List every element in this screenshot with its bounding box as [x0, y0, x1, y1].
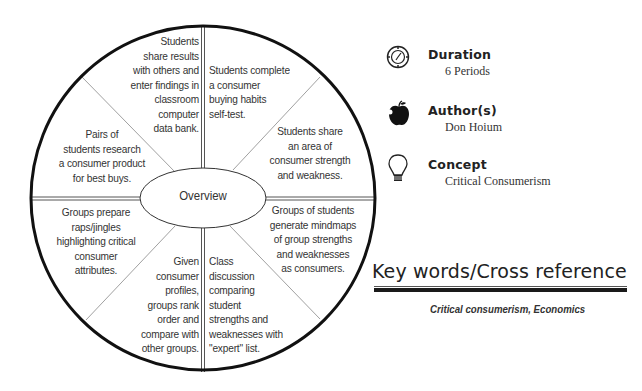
segment-right-upper: Students share an area of consumer stren… [257, 124, 363, 182]
authors-label: Author(s) [428, 103, 497, 118]
lightbulb-icon [386, 153, 412, 183]
apple-icon [386, 99, 412, 129]
keywords-heading: Key words/Cross reference [372, 260, 627, 282]
authors-value: Don Hoium [445, 120, 502, 135]
keywords-rule [374, 288, 627, 292]
segment-bottom-right: Class discussion comparing student stren… [209, 254, 315, 356]
segment-top-left: Students share results with others and e… [96, 34, 199, 136]
segment-top-right: Students complete a consumer buying habi… [209, 63, 315, 121]
keywords-rule-thin [374, 286, 627, 287]
concept-label: Concept [428, 157, 487, 172]
duration-label: Duration [428, 47, 491, 62]
center-label: Overview [150, 188, 256, 203]
segment-left-upper: Pairs of students research a consumer pr… [49, 127, 155, 185]
concept-value: Critical Consumerism [445, 174, 551, 189]
duration-value: 6 Periods [445, 64, 490, 79]
segment-left-lower: Groups prepare raps/jingles highlighting… [43, 205, 149, 278]
keywords-list: Critical consumerism, Economics [430, 303, 585, 315]
clock-icon [386, 45, 412, 75]
